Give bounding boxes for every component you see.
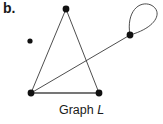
edge-top-right <box>66 9 99 93</box>
vertex-bottom-right <box>96 90 103 97</box>
edges-group <box>31 4 157 93</box>
part-label: b. <box>3 1 15 15</box>
vertex-bottom-left <box>28 90 35 97</box>
edge-top-left <box>31 9 66 93</box>
caption-graph-name: L <box>97 103 104 117</box>
edge-self-loop <box>129 4 157 35</box>
vertex-loop <box>127 32 134 39</box>
vertex-top <box>63 6 70 13</box>
graph-figure: b. Graph L <box>0 0 163 124</box>
caption-prefix: Graph <box>59 103 94 117</box>
vertices-group <box>27 6 133 97</box>
edge-left-loopvertex <box>31 35 130 93</box>
vertex-isolated <box>27 38 32 43</box>
figure-caption: Graph L <box>0 104 163 117</box>
